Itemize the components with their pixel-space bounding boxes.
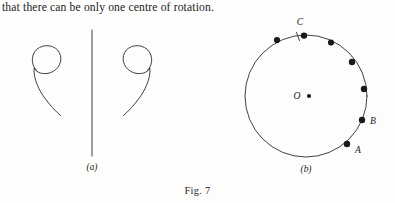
centre-point-dot (307, 94, 311, 98)
point-label-a: A (354, 144, 361, 155)
point-label-c: C (297, 16, 304, 27)
point-label-b: B (370, 115, 376, 126)
right-spiral-curve (123, 46, 152, 116)
circumference-dot-2 (301, 32, 307, 38)
main-circle (245, 35, 367, 157)
circumference-dot-7-point-a (344, 141, 350, 147)
figure-page: that there can be only one centre of rot… (0, 0, 395, 203)
figure-caption: Fig. 7 (0, 185, 395, 196)
figure-a-group: (a) (32, 30, 151, 173)
figure-b-group: O A B C (b) (245, 16, 376, 175)
left-spiral-curve (32, 46, 61, 116)
figure-a-sublabel: (a) (87, 162, 98, 173)
tick-mark-c (297, 33, 300, 41)
circumference-dot-1 (274, 37, 280, 43)
circumference-dot-5 (361, 86, 367, 92)
figure-b-sublabel: (b) (301, 164, 312, 175)
circumference-dot-3 (328, 39, 334, 45)
figures-canvas: (a) O A B C (b) (0, 0, 395, 203)
centre-label-o: O (294, 90, 301, 101)
circumference-dot-6-point-b (359, 117, 365, 123)
circumference-dot-4 (349, 59, 355, 65)
